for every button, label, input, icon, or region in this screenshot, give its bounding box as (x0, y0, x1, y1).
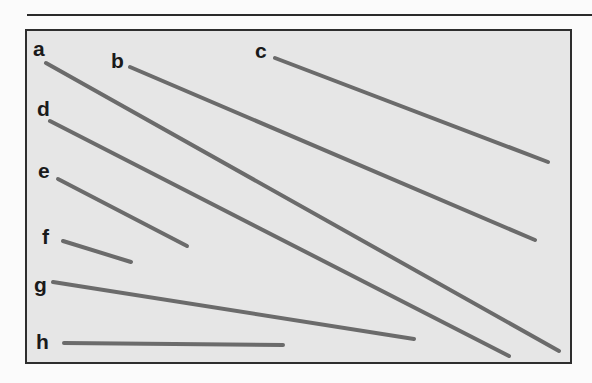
line-b (130, 67, 535, 240)
line-h (64, 343, 283, 345)
line-f (63, 241, 131, 262)
label-c: c (255, 40, 267, 61)
label-g: g (34, 274, 47, 295)
label-f: f (42, 226, 49, 247)
line-e (58, 179, 187, 246)
line-a (46, 63, 559, 351)
label-b: b (111, 50, 124, 71)
line-d (50, 121, 509, 356)
label-e: e (38, 160, 50, 181)
label-a: a (33, 38, 45, 59)
lines-canvas (0, 0, 592, 383)
label-d: d (37, 98, 50, 119)
line-g (53, 282, 414, 339)
label-h: h (36, 331, 49, 352)
